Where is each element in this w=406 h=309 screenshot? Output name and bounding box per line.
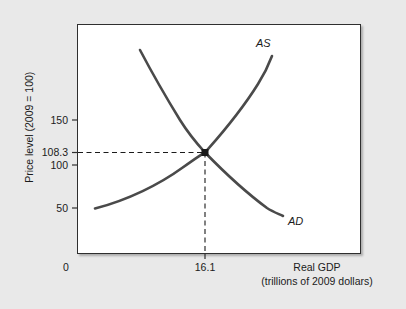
y-axis-title: Price level (2009 = 100) [24,57,35,197]
x-axis-title: Real GDP (trillions of 2009 dollars) [231,261,403,289]
aggregate-supply-curve-label: AS [256,38,271,49]
equilibrium-point-marker [202,149,209,156]
aggregate-demand-supply-chart: 150 108.3 100 50 0 16.1 Price level (200… [0,0,406,309]
x-tick-label-0: 0 [52,262,80,273]
aggregate-demand-curve [140,50,283,216]
x-axis-title-line-2: (trillions of 2009 dollars) [231,275,403,289]
aggregate-demand-curve-label: AD [288,216,303,227]
x-axis-title-line-1: Real GDP [231,261,403,275]
y-tick-label-50: 50 [22,203,68,214]
y-axis-ticks [72,120,78,208]
aggregate-supply-curve [95,56,272,209]
x-tick-label-16-1: 16.1 [184,262,226,273]
